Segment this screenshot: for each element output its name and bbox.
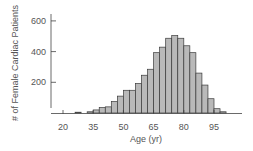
histogram-bar <box>75 112 81 113</box>
histogram-bar <box>166 38 172 113</box>
histogram-bar <box>190 53 196 113</box>
histogram-bar <box>93 110 99 113</box>
histogram-bar <box>178 38 184 113</box>
y-axis-ticks: 200400600 <box>31 16 56 87</box>
histogram-bar <box>99 108 105 113</box>
histogram-bar <box>208 99 214 113</box>
histogram-bar <box>87 112 93 113</box>
histogram-bar <box>123 90 129 113</box>
histogram-bar <box>214 109 220 113</box>
x-tick-label: 80 <box>179 122 189 132</box>
histogram-bar <box>196 73 202 113</box>
x-tick-label: 95 <box>209 122 219 132</box>
histogram-bar <box>220 112 226 113</box>
histogram-bar <box>142 75 148 113</box>
histogram-bar <box>111 101 117 113</box>
x-tick-label: 50 <box>118 122 128 132</box>
histogram-bar <box>148 69 154 113</box>
y-axis-title: # of Female Cardiac Patients <box>10 4 20 121</box>
histogram-bar <box>160 47 166 113</box>
histogram-bar <box>172 36 178 113</box>
x-tick-label: 65 <box>149 122 159 132</box>
histogram-bar <box>105 107 111 113</box>
x-tick-label: 20 <box>58 122 68 132</box>
x-tick-label: 35 <box>88 122 98 132</box>
histogram-bar <box>117 96 123 113</box>
histogram-bar <box>154 53 160 113</box>
histogram-chart: 200400600 203550658095 Age (yr) # of Fem… <box>0 0 253 151</box>
histogram-bar <box>135 84 141 113</box>
histogram-bars <box>75 36 226 113</box>
histogram-bar <box>202 85 208 113</box>
histogram-bar <box>129 90 135 113</box>
y-tick-label: 200 <box>31 77 46 87</box>
y-tick-label: 600 <box>31 16 46 26</box>
x-axis-title: Age (yr) <box>130 134 162 144</box>
histogram-bar <box>184 46 190 113</box>
y-tick-label: 400 <box>31 47 46 57</box>
